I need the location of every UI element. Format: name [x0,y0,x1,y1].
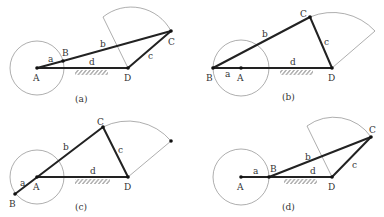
ground-hatch [280,70,313,75]
label-a: a [253,166,259,176]
label-d: d [90,166,96,176]
label-D: D [124,73,131,83]
label-c: c [148,51,153,61]
joint-a [35,66,39,70]
caption-b: (b) [282,92,295,102]
joint-b [13,192,17,196]
label-a: a [225,69,231,79]
label-D: D [328,73,335,83]
caption-d: (d) [282,202,295,212]
link-c [332,137,371,177]
joint-c [169,29,173,33]
joint-a [239,175,243,179]
joint-a [239,66,243,70]
joint-a [35,175,39,179]
label-A: A [236,182,244,192]
panel-d: A B C D a b c d (d) [213,117,376,212]
link-b [269,137,371,177]
label-a: a [48,54,54,64]
label-B: B [270,164,277,174]
link-c [103,127,128,177]
caption-a: (a) [75,94,87,104]
label-D: D [124,182,131,192]
joint-c [308,15,312,19]
label-b: b [63,142,69,152]
label-c: c [118,145,123,155]
label-b: b [305,152,311,162]
label-A: A [32,182,40,192]
joint-b [211,66,215,70]
label-B: B [9,199,16,209]
joint-d [126,66,130,70]
label-C: C [300,9,307,19]
label-C: C [369,125,376,135]
label-c: c [324,37,329,47]
joint-b [267,175,271,179]
joint-d [330,66,334,70]
four-bar-linkage-diagram: A B C D a b c d (a) B A C D a b c d (b) [0,0,384,217]
label-d: d [290,57,296,67]
label-d: d [310,166,316,176]
label-C: C [97,117,104,127]
label-D: D [328,182,335,192]
panel-a: A B C D a b c d (a) [10,7,175,104]
ground-hatch [284,179,317,184]
label-b: b [100,39,106,49]
label-B: B [206,73,213,83]
label-A: A [236,73,244,83]
rocker-arc [103,7,171,68]
label-A: A [32,73,40,83]
label-C: C [168,37,175,47]
arc-end-point [169,139,173,143]
ground-hatch [75,70,108,75]
panel-c: A B C D a b c d (c) [9,117,173,212]
label-B: B [62,48,69,58]
ground-hatch [75,179,110,184]
joint-d [126,175,130,179]
panel-b: B A C D a b c d (b) [206,9,375,102]
joint-b [61,59,65,63]
caption-c: (c) [75,202,87,212]
label-d: d [89,57,95,67]
joint-c [369,135,373,139]
label-a: a [20,178,26,188]
label-b: b [262,29,268,39]
joint-d [330,175,334,179]
label-c: c [352,160,357,170]
